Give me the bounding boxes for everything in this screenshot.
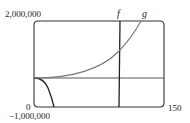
series-g-label: g <box>142 9 147 18</box>
series-f-vertical <box>119 21 120 107</box>
series-f-label: f <box>117 9 120 18</box>
y-top-tick-label: 2,000,000 <box>5 10 41 19</box>
plot-frame <box>34 21 164 107</box>
y-bottom-tick-label: −1,000,000 <box>9 112 50 121</box>
series-f-curve <box>34 78 54 107</box>
x-right-tick-label: 150 <box>168 104 182 113</box>
series-g-curve <box>34 21 141 78</box>
